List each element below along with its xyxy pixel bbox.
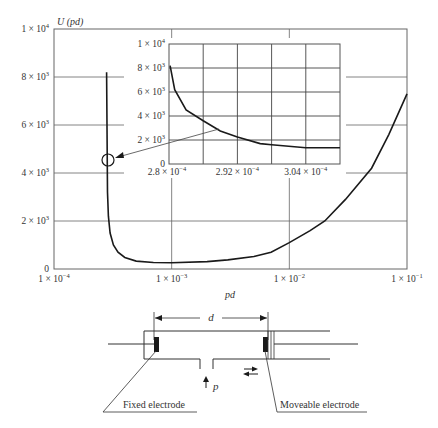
moveable-electrode-label: Moveable electrode xyxy=(280,399,360,410)
main-y-tick-labels: 02 × 1034 × 1036 × 1038 × 1031 × 104 xyxy=(21,22,49,274)
move-left-arrow-icon xyxy=(243,372,249,377)
inset-x-tick-labels: 2.8 × 10−42.92 × 10−43.04 × 10−4 xyxy=(148,165,328,177)
inset-y-tick-label: 8 × 103 xyxy=(137,61,165,73)
inset-y-tick-label: 1 × 104 xyxy=(137,37,165,49)
inset-y-tick-label: 6 × 103 xyxy=(137,85,165,97)
y-tick-label: 8 × 103 xyxy=(21,70,49,82)
electrode-diagram: d p Fixed electrode Moveable electro xyxy=(103,311,367,412)
inset-background xyxy=(124,38,346,178)
main-x-tick-labels: 1 × 10−41 × 10−31 × 10−21 × 10−1 xyxy=(38,272,422,284)
pressure-arrow-icon xyxy=(203,376,209,382)
figure: 02 × 1034 × 1036 × 1038 × 1031 × 104 1 ×… xyxy=(0,0,438,428)
x-tick-label: 1 × 10−2 xyxy=(274,272,305,284)
moveable-electrode xyxy=(263,337,268,352)
x-tick-label: 1 × 10−4 xyxy=(38,272,70,284)
move-right-arrow-icon xyxy=(252,367,258,372)
dim-arrow-right-icon xyxy=(260,315,267,321)
fixed-electrode-label: Fixed electrode xyxy=(123,399,185,410)
pressure-label: p xyxy=(212,380,219,392)
x-tick-label: 1 × 10−3 xyxy=(156,272,187,284)
arrowhead-icon xyxy=(115,152,124,158)
x-tick-label: 1 × 10−1 xyxy=(391,272,422,284)
inset-y-tick-label: 2 × 103 xyxy=(137,133,165,145)
y-tick-label: 0 xyxy=(44,264,49,274)
y-tick-label: 4 × 103 xyxy=(21,166,49,178)
y-axis-label: U (pd) xyxy=(57,16,84,28)
dimension-label: d xyxy=(208,311,214,323)
moveable-electrode-leader xyxy=(265,351,277,412)
inset-y-tick-label: 4 × 103 xyxy=(137,109,165,121)
fixed-electrode xyxy=(154,337,159,352)
y-tick-label: 2 × 103 xyxy=(21,214,49,226)
x-axis-label: pd xyxy=(224,289,236,300)
inset-plot: 02 × 1034 × 1036 × 1038 × 1031 × 104 2.8… xyxy=(124,37,346,178)
dim-arrow-left-icon xyxy=(155,315,162,321)
y-tick-label: 6 × 103 xyxy=(21,118,49,130)
y-tick-label: 1 × 104 xyxy=(21,22,49,34)
